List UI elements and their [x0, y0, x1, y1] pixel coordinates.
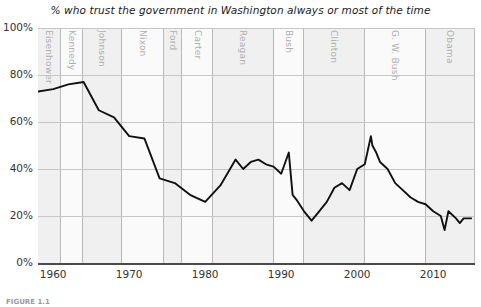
- y-tick-label-100: 100%: [0, 21, 33, 33]
- x-tick-label-1960: 1960: [40, 268, 67, 280]
- y-tick-label-80: 80%: [0, 68, 33, 80]
- x-tick-label-1990: 1990: [268, 268, 295, 280]
- y-tick-label-40: 40%: [0, 162, 33, 174]
- trust-in-government-chart: % who trust the government in Washington…: [0, 0, 481, 307]
- y-tick-label-20: 20%: [0, 209, 33, 221]
- x-tick-label-1980: 1980: [192, 268, 219, 280]
- x-tick-label-2010: 2010: [420, 268, 447, 280]
- x-tick-label-1970: 1970: [116, 268, 143, 280]
- y-tick-label-60: 60%: [0, 115, 33, 127]
- y-axis-labels: 0%20%40%60%80%100%: [0, 0, 481, 307]
- figure-caption: FIGURE 1.1: [6, 298, 306, 307]
- y-tick-label-0: 0%: [0, 256, 33, 268]
- x-tick-label-2000: 2000: [344, 268, 371, 280]
